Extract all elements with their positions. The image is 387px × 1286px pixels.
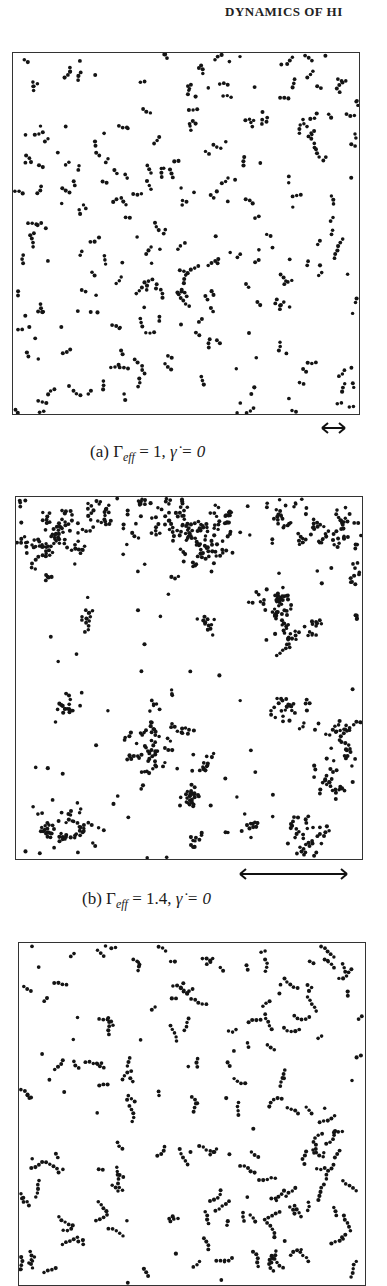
running-head: DYNAMICS OF HI: [225, 4, 343, 20]
panel-c: [18, 942, 366, 1286]
caption-value: = 1.4,: [128, 889, 176, 908]
panel-caption-a: (a) Γeff = 1, γ̇ = 0: [90, 442, 205, 465]
caption-label: (a): [90, 442, 109, 461]
scale-bar-arrow-icon: [238, 867, 349, 881]
panel-b: [15, 496, 363, 860]
particle-plot: [13, 53, 359, 414]
caption-label: (b): [82, 889, 102, 908]
panel-caption-b: (b) Γeff = 1.4, γ̇ = 0: [82, 889, 211, 912]
caption-shear-rate: γ̇ = 0: [176, 889, 211, 908]
scale-bar-arrow-icon: [320, 421, 347, 435]
caption-subscript: eff: [116, 897, 128, 911]
caption-value: = 1,: [135, 442, 170, 461]
caption-param: Γ: [106, 889, 116, 908]
particle-plot: [19, 943, 365, 1285]
caption-param: Γ: [113, 442, 123, 461]
panel-a: [12, 52, 360, 415]
caption-shear-rate: γ̇ = 0: [170, 442, 205, 461]
caption-subscript: eff: [123, 450, 135, 464]
particle-plot: [16, 497, 362, 859]
